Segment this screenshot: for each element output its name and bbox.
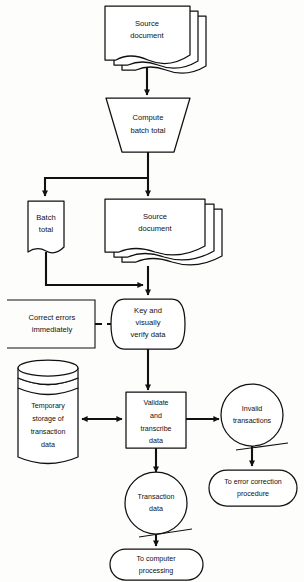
flowchart-diagram: Source document Compute batch total Batc… <box>0 0 304 582</box>
temporary-storage-label-2: storage of <box>32 415 64 423</box>
key-verify-label-3: verify data <box>130 330 166 339</box>
validate-transcribe-label-4: data <box>149 437 163 445</box>
node-source-document-mid: Source document <box>105 199 222 265</box>
temporary-storage-body <box>18 388 78 464</box>
temporary-storage-label-1: Temporary <box>31 402 65 410</box>
to-computer-processing-label-2: processing <box>139 567 173 575</box>
connector-split-to-batch-total <box>45 178 148 196</box>
node-validate-transcribe: Validate and transcribe data <box>126 392 186 448</box>
node-temporary-storage: Temporary storage of transaction data <box>18 360 78 464</box>
transaction-data-shape <box>125 472 187 534</box>
source-document-mid-label-1: Source <box>143 212 167 221</box>
key-verify-label-1: Key and <box>134 306 162 315</box>
validate-transcribe-label-2: and <box>150 412 162 420</box>
source-document-mid-label-2: document <box>138 224 172 233</box>
node-batch-total: Batch total <box>28 201 64 253</box>
node-source-document-top: Source document <box>105 6 206 73</box>
correct-errors-label-2: immediately <box>32 325 73 334</box>
key-verify-label-2: visually <box>136 318 161 327</box>
flowchart-canvas: Source document Compute batch total Batc… <box>0 0 304 582</box>
invalid-transactions-label-1: Invalid <box>242 405 263 413</box>
node-to-error-correction: To error correction procedure <box>209 470 297 506</box>
temporary-storage-platter-top <box>18 360 78 376</box>
temporary-storage-label-4: data <box>41 441 55 449</box>
compute-batch-total-shape <box>106 98 190 152</box>
correct-errors-bracket <box>7 300 95 348</box>
to-computer-processing-shape <box>110 549 203 580</box>
node-transaction-data: Transaction data <box>125 472 192 537</box>
compute-batch-total-label-1: Compute <box>133 113 164 122</box>
transaction-data-label-2: data <box>149 505 163 513</box>
node-key-verify: Key and visually verify data <box>111 299 185 349</box>
validate-transcribe-label-3: transcribe <box>140 425 171 433</box>
source-document-top-label-2: document <box>130 31 164 40</box>
correct-errors-label-1: Correct errors <box>29 313 76 322</box>
batch-total-label-1: Batch <box>36 213 55 222</box>
to-error-correction-label-1: To error correction <box>224 478 282 486</box>
batch-total-label-2: total <box>39 225 54 234</box>
node-invalid-transactions: Invalid transactions <box>221 384 288 450</box>
to-error-correction-shape <box>209 470 297 506</box>
node-compute-batch-total: Compute batch total <box>106 98 190 152</box>
to-error-correction-label-2: procedure <box>237 490 269 498</box>
compute-batch-total-label-2: batch total <box>130 126 165 135</box>
transaction-data-label-1: Transaction <box>138 493 175 501</box>
to-computer-processing-label-1: To computer <box>136 555 176 563</box>
node-correct-errors: Correct errors immediately <box>7 300 95 348</box>
node-to-computer-processing: To computer processing <box>110 549 203 580</box>
validate-transcribe-label-1: Validate <box>143 399 168 407</box>
invalid-transactions-label-2: transactions <box>233 417 272 425</box>
source-document-top-label-1: Source <box>135 19 159 28</box>
invalid-transactions-shape <box>221 384 283 446</box>
temporary-storage-label-3: transaction <box>31 428 66 436</box>
